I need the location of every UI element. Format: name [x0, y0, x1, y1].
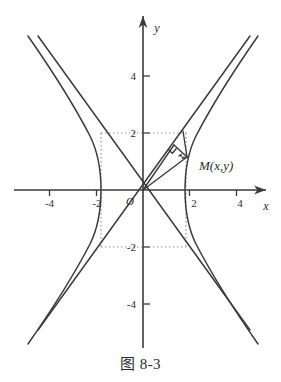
- origin-label: O: [126, 195, 134, 207]
- point-label-M: M(x,y): [198, 158, 233, 173]
- x-tick-label-2: 2: [191, 197, 197, 209]
- y-tick-label-2: 2: [131, 127, 137, 139]
- construction-group: [143, 131, 187, 190]
- y-axis-label: y: [153, 21, 160, 35]
- hyperbola-figure: -4 -2 2 4 4 2 -2 -4 O x y M(x,y): [0, 0, 281, 382]
- x-tick-label-minus4: -4: [45, 197, 55, 209]
- figure-canvas: -4 -2 2 4 4 2 -2 -4 O x y M(x,y): [0, 0, 281, 382]
- figure-caption: 图 8-3: [0, 352, 281, 373]
- y-tick-label-minus4: -4: [127, 298, 137, 310]
- segment-origin-to-M: [143, 157, 187, 190]
- segment-origin-to-foot: [143, 145, 174, 190]
- y-tick-label-minus2: -2: [127, 241, 136, 253]
- y-tick-label-4: 4: [131, 70, 137, 82]
- x-tick-label-minus2: -2: [92, 197, 101, 209]
- x-tick-label-4: 4: [237, 197, 243, 209]
- asymptotes-group: [38, 36, 250, 330]
- x-axis-label: x: [262, 199, 269, 213]
